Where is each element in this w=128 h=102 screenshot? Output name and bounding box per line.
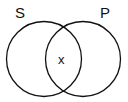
intersection-mark: x <box>58 53 65 66</box>
circle-s <box>7 22 82 97</box>
circle-p <box>46 22 121 97</box>
set-label-s: S <box>15 5 25 20</box>
set-label-p: P <box>100 5 110 20</box>
venn-diagram: S P x <box>0 0 128 102</box>
